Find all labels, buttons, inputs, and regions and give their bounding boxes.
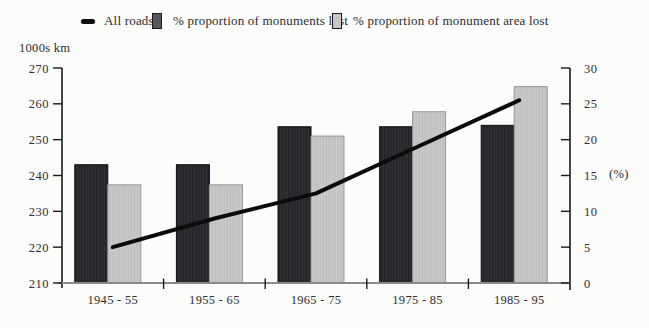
- plot-area: 2702602502402302202103025201510501945 - …: [0, 0, 649, 328]
- category-label: 1945 - 55: [87, 293, 138, 307]
- bar-monuments-lost: [75, 165, 108, 283]
- left-axis-tick-label: 260: [29, 97, 49, 111]
- category-label: 1985 - 95: [494, 293, 545, 307]
- right-axis-tick-label: 20: [584, 133, 598, 147]
- left-axis-tick-label: 250: [29, 133, 49, 147]
- bar-monument-area-lost: [209, 185, 242, 283]
- bar-monument-area-lost: [108, 185, 141, 283]
- right-axis-tick-label: 5: [584, 241, 591, 255]
- category-label: 1975 - 85: [392, 293, 443, 307]
- left-axis-tick-label: 210: [29, 277, 49, 291]
- bar-monuments-lost: [481, 125, 514, 283]
- bar-monument-area-lost: [514, 87, 547, 283]
- category-label: 1955 - 65: [189, 293, 240, 307]
- left-axis-tick-label: 220: [29, 241, 49, 255]
- left-axis-tick-label: 270: [29, 62, 49, 76]
- right-axis-tick-label: 10: [584, 205, 598, 219]
- left-axis-tick-label: 230: [29, 205, 49, 219]
- bar-monument-area-lost: [311, 136, 344, 283]
- right-axis-tick-label: 30: [584, 62, 598, 76]
- bar-monuments-lost: [278, 127, 311, 283]
- right-axis-tick-label: 0: [584, 277, 591, 291]
- monuments-roads-chart: All roads % proportion of monuments lost…: [0, 0, 649, 328]
- left-axis-tick-label: 240: [29, 169, 49, 183]
- category-label: 1965 - 75: [291, 293, 342, 307]
- right-axis-tick-label: 15: [584, 169, 598, 183]
- right-axis-tick-label: 25: [584, 97, 598, 111]
